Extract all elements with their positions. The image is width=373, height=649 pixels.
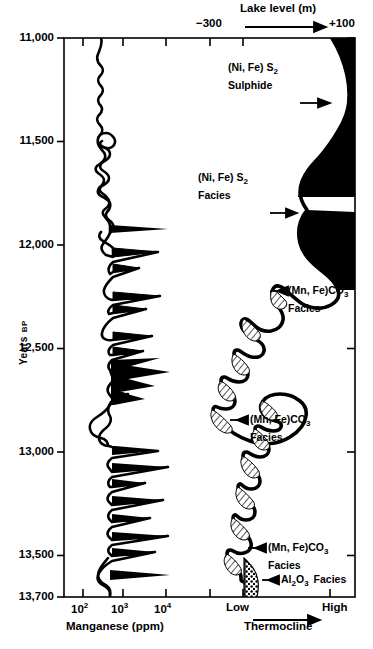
y-tick-label: 13,500	[0, 548, 54, 560]
thermocline-high-label: High	[322, 601, 348, 613]
mn-tick-3-exp: 4	[167, 601, 171, 610]
annotation-mnfe3-line1: (Mn, Fe)CO	[268, 541, 324, 553]
y-tick-label: 11,000	[0, 31, 54, 43]
lake-level-min-label: −300	[196, 17, 222, 29]
y-axis-title-text: Years	[18, 336, 29, 365]
annotation-al2o3-sub2: 3	[304, 579, 308, 588]
x-axis-ticks-top	[83, 38, 243, 46]
annotation-al2o3-tail: Facies	[314, 573, 347, 585]
annotation-mnfe1-line2: Facies	[288, 302, 348, 315]
y-tick-label: 13,000	[0, 445, 54, 457]
annotation-nife-line2: Facies	[198, 189, 248, 202]
annotation-nife-line1: (Ni, Fe) S	[198, 171, 244, 183]
annotation-mnfe2-line2: Facies	[250, 431, 310, 444]
annotation-mnfe2-sub: 3	[306, 419, 310, 428]
mn-tick-2-base: 10	[111, 603, 124, 615]
mn-x-tick-3: 104	[154, 601, 171, 615]
manganese-axis-label: Manganese (ppm)	[66, 620, 164, 632]
annotation-sulphide-line1: (Ni, Fe) S	[228, 61, 274, 73]
lake-level-curve	[213, 38, 355, 597]
y-tick-label: 11,500	[0, 134, 54, 146]
lake-level-header-arrow	[245, 22, 326, 32]
annotation-sulphide-sub: 2	[274, 67, 278, 76]
annotation-al2o3: Al2O3Facies	[281, 573, 346, 591]
al2o3-stippled-region	[244, 558, 258, 597]
annotation-sulphide-line2: Sulphide	[228, 79, 278, 92]
annotation-al2o3-o: O	[296, 573, 304, 585]
thermocline-low-label: Low	[226, 601, 249, 613]
thermocline-axis-label: Thermocline	[244, 620, 312, 632]
mn-tick-1-base: 10	[71, 603, 84, 615]
annotation-mnfeco3-3: (Mn, Fe)CO3 Facies	[268, 541, 328, 571]
y-tick-label: 13,700	[0, 590, 54, 602]
manganese-curve	[90, 38, 170, 597]
annotation-mnfe1-sub: 3	[344, 290, 348, 299]
annotation-mnfe3-line2: Facies	[268, 559, 328, 572]
y-axis-title-sub: BP	[20, 320, 29, 332]
annotation-sulphide: (Ni, Fe) S2 Sulphide	[228, 61, 278, 91]
annotation-mnfe2-line1: (Mn, Fe)CO	[250, 413, 306, 425]
annotation-nife-facies: (Ni, Fe) S2 Facies	[198, 171, 248, 201]
lake-level-header: Lake level (m)	[240, 2, 316, 14]
mn-tick-2-exp: 3	[124, 601, 128, 610]
mn-x-tick-1: 102	[71, 601, 88, 615]
annotation-nife-sub: 2	[244, 177, 248, 186]
y-axis-title: YearsBP	[18, 320, 29, 365]
mn-tick-3-base: 10	[154, 603, 167, 615]
lake-level-max-label: +100	[329, 17, 355, 29]
y-axis-ticks	[57, 38, 64, 597]
annotation-mnfe3-sub: 3	[324, 547, 328, 556]
mn-tick-1-exp: 2	[84, 601, 88, 610]
annotation-al2o3-al: Al	[281, 573, 292, 585]
mn-x-tick-2: 103	[111, 601, 128, 615]
annotation-mnfeco3-2: (Mn, Fe)CO3 Facies	[250, 413, 310, 443]
annotation-mnfe1-line1: (Mn, Fe)CO	[288, 284, 344, 296]
annotation-mnfeco3-1: (Mn, Fe)CO3 Facies	[288, 284, 348, 314]
y-tick-label: 12,000	[0, 238, 54, 250]
